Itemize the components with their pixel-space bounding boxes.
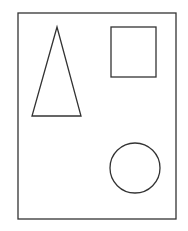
diagram-canvas bbox=[0, 0, 188, 231]
square-shape bbox=[111, 27, 156, 77]
circle-shape bbox=[110, 143, 160, 193]
triangle-shape bbox=[32, 27, 81, 116]
